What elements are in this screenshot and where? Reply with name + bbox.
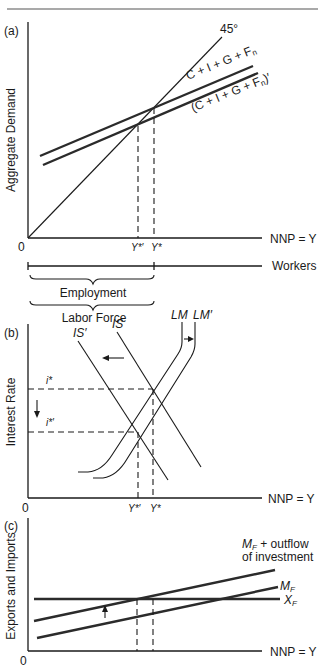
panel-c-y-axis-label: Exports and Imports — [4, 532, 18, 639]
workers-label: Workers — [272, 259, 316, 273]
is-label: IS — [112, 317, 123, 331]
line-45-label: 45° — [220, 22, 238, 36]
mf-label: MF — [280, 579, 296, 594]
lm-prime-label: LM′ — [193, 308, 213, 322]
i-star-label: i* — [46, 375, 53, 386]
mf-outflow-label-line2: of investment — [242, 550, 314, 564]
xf-label: XF — [283, 593, 298, 608]
panel-c-origin: 0 — [20, 654, 27, 668]
panel-b-origin: 0 — [22, 501, 29, 515]
labor-force-brace — [30, 301, 154, 310]
panel-a-origin: 0 — [18, 240, 25, 254]
is-curve — [117, 332, 201, 467]
lm-label: LM — [171, 308, 188, 322]
lm-shift-arrow-icon — [188, 336, 194, 342]
is-prime-label: IS′ — [73, 326, 87, 340]
y-star-prime-label: Y*′ — [131, 242, 145, 253]
employment-brace — [30, 275, 154, 284]
panel-a-label: (a) — [4, 24, 19, 38]
lm-prime-curve — [93, 322, 195, 478]
panel-b-y-star-prime-label: Y*′ — [128, 503, 142, 514]
interest-down-arrow-icon — [34, 411, 40, 418]
is-prime-curve — [78, 341, 168, 480]
is-shift-arrow-icon — [102, 355, 109, 361]
economics-diagram: (a) Aggregate Demand 0 NNP = Y 45° C + I… — [0, 0, 323, 672]
panel-b-y-star-label: Y* — [150, 503, 162, 514]
panel-b-label: (b) — [4, 326, 19, 340]
panel-c: (c) Exports and Imports 0 NNP = Y MF + o… — [4, 518, 317, 668]
i-star-prime-label: i*′ — [46, 417, 55, 428]
panel-c-label: (c) — [4, 519, 18, 533]
panel-a-x-axis-label: NNP = Y — [270, 232, 317, 246]
panel-b-y-axis-label: Interest Rate — [4, 377, 18, 446]
employment-label: Employment — [60, 286, 127, 300]
panel-c-x-axis-label: NNP = Y — [270, 645, 317, 659]
ad-line — [40, 66, 253, 156]
panel-b-x-axis-label: NNP = Y — [268, 492, 315, 506]
y-star-label: Y* — [151, 242, 163, 253]
panel-a-y-axis-label: Aggregate Demand — [4, 88, 18, 192]
panel-a: (a) Aggregate Demand 0 NNP = Y 45° C + I… — [4, 22, 317, 325]
panel-b: (b) Interest Rate 0 NNP = Y IS IS′ LM LM… — [4, 308, 315, 515]
